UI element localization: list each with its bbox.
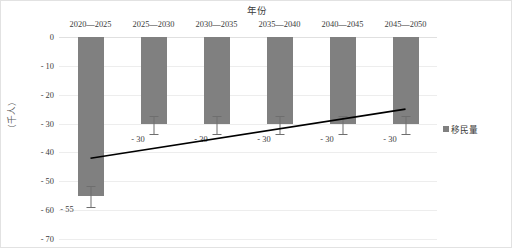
trend-line-path <box>91 109 406 158</box>
y-axis-tick-label: - 30 <box>41 119 54 128</box>
y-axis-tick-label: - 20 <box>41 90 54 99</box>
y-axis-title: （千人） <box>5 85 17 145</box>
y-axis-tick-label: 0 <box>50 33 54 42</box>
y-axis-tick-label: - 40 <box>41 148 54 157</box>
x-axis-category-label: 2040—2045 <box>311 20 374 34</box>
y-axis-tick-label: - 60 <box>41 206 54 215</box>
x-axis-category-label: 2045—2050 <box>374 20 437 34</box>
chart-container: 年份 2020—20252025—20302030—20352035—20402… <box>0 0 512 248</box>
y-axis-tick-label: - 50 <box>41 177 54 186</box>
chart-title: 年份 <box>1 3 512 17</box>
x-axis-category-label: 2025—2030 <box>122 20 185 34</box>
legend: 移民量 <box>443 123 478 135</box>
y-axis-tick-label: - 70 <box>41 235 54 244</box>
legend-swatch-icon <box>443 126 449 132</box>
x-axis-category-label: 2020—2025 <box>59 20 122 34</box>
gridline <box>59 239 437 240</box>
x-axis-category-label: 2030—2035 <box>185 20 248 34</box>
trend-line <box>59 37 437 239</box>
x-axis-category-labels: 2020—20252025—20302030—20352035—20402040… <box>59 20 437 34</box>
plot-area: 0- 10- 20- 30- 40- 50- 60- 70 - 55- 30- … <box>59 37 437 239</box>
x-axis-category-label: 2035—2040 <box>248 20 311 34</box>
legend-item-label: 移民量 <box>451 123 478 135</box>
y-axis-tick-label: - 10 <box>41 61 54 70</box>
